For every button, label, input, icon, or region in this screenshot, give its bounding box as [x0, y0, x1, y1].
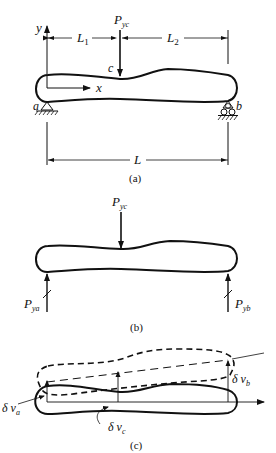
roller-wheel-icon [221, 109, 227, 115]
load-pyc-label: Pyc [113, 12, 130, 29]
dva-leader [18, 396, 44, 404]
dim-arrowhead [221, 158, 227, 162]
displaced-chord-dashed [47, 360, 228, 382]
reaction-pyb-label: Pyb [234, 296, 251, 313]
dvb-label: δ vb [232, 372, 250, 388]
dvc-leader [97, 407, 108, 424]
pin-support-icon [41, 102, 53, 110]
point-b-label: b [236, 99, 242, 113]
roller-wheel-icon [229, 109, 235, 115]
dvc-label: δ vc [108, 420, 126, 436]
body-outline [36, 69, 237, 102]
chord-extension-line [232, 353, 264, 359]
panel-c: δ va δ vc δ vb (c) [2, 349, 264, 452]
caption-a: (a) [129, 172, 142, 185]
l1-label: L1 [76, 30, 89, 47]
dim-arrowhead [48, 36, 54, 40]
original-body-outline [35, 384, 237, 414]
dim-arrowhead [48, 158, 54, 162]
x-axis-label: x [95, 80, 102, 95]
l-label: L [133, 152, 141, 167]
reaction-pya-label: Pya [23, 296, 40, 313]
dim-arrowhead [221, 36, 227, 40]
y-axis-label: y [34, 20, 42, 35]
l2-label: L2 [166, 30, 179, 47]
displaced-body-outline [37, 349, 234, 395]
beam-virtual-work-diagram: y x L1 L2 Pyc c a [0, 0, 276, 453]
ground-hatch-b [218, 116, 237, 120]
body-outline-b [36, 241, 237, 272]
caption-b: (b) [130, 321, 143, 334]
point-c-label: c [108, 61, 114, 75]
load-pyc-label-b: Pyc [111, 194, 128, 211]
caption-c: (c) [130, 439, 143, 452]
dim-arrowhead [111, 36, 117, 40]
panel-b: Pyc Pya Pyb (b) [23, 194, 251, 334]
dva-label: δ va [2, 401, 20, 417]
panel-a: y x L1 L2 Pyc c a [33, 12, 242, 185]
